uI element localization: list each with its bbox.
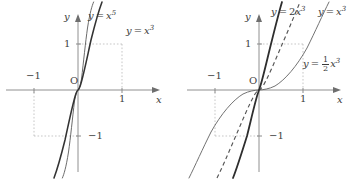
- chart-panel-right: y x O −1 1 1 −1 y = 2x3 y = x3 y = 12x3: [181, 0, 362, 180]
- y-axis-arrow: [75, 14, 81, 22]
- left-tick-label-y-pos1: 1: [64, 39, 70, 49]
- right-tick-label-x-neg1: −1: [207, 71, 222, 81]
- chart-panel-left: y x O −1 1 1 −1 y = x5 y = x3: [0, 0, 181, 180]
- left-tick-label-y-neg1: −1: [88, 131, 103, 141]
- right-origin-label: O: [249, 76, 257, 86]
- left-tick-label-x-pos1: 1: [119, 94, 125, 104]
- left-x-axis-label: x: [156, 95, 162, 105]
- x-axis-arrow: [152, 87, 160, 93]
- right-x-axis-label: x: [337, 95, 343, 105]
- right-tick-label-x-pos1: 1: [300, 94, 306, 104]
- left-curve-label-x-pow5: y = x5: [88, 10, 116, 21]
- left-axes: [6, 16, 152, 172]
- left-origin-label: O: [70, 76, 78, 86]
- left-y-axis-label: y: [64, 12, 70, 22]
- y-axis-arrow: [256, 14, 262, 22]
- x-axis-arrow: [333, 87, 341, 93]
- right-tick-label-y-neg1: −1: [269, 131, 284, 141]
- right-curve-label-half-x-pow3: y = 12x3: [303, 56, 340, 74]
- left-tick-label-x-neg1: −1: [26, 71, 41, 81]
- right-plot-svg: [181, 0, 362, 180]
- left-curve-label-x-pow3: y = x3: [126, 25, 154, 36]
- fraction-one-half: 12: [322, 56, 329, 74]
- right-y-axis-label: y: [245, 12, 251, 22]
- right-curve-label-2x-pow3: y = 2x3: [271, 6, 306, 17]
- dual-graph-figure: y x O −1 1 1 −1 y = x5 y = x3: [0, 0, 363, 180]
- right-curve-label-x-pow3: y = x3: [318, 6, 346, 17]
- right-tick-label-y-pos1: 1: [245, 39, 251, 49]
